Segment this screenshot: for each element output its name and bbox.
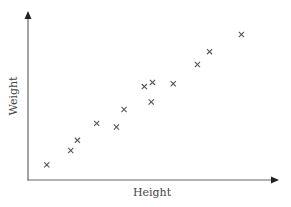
x-marker-icon	[94, 121, 99, 126]
x-marker-icon	[207, 49, 212, 54]
x-axis	[28, 177, 280, 184]
x-axis-arrow-icon	[271, 177, 279, 184]
scatter-chart: Height Weight	[0, 0, 291, 207]
x-marker-icon	[68, 148, 73, 153]
x-marker-icon	[121, 107, 126, 112]
x-marker-icon	[171, 81, 176, 86]
x-marker-icon	[239, 32, 244, 37]
y-axis-label: Weight	[7, 76, 20, 116]
x-axis-label: Height	[133, 186, 172, 199]
x-marker-icon	[149, 99, 154, 104]
x-marker-icon	[142, 84, 147, 89]
x-marker-icon	[114, 124, 119, 129]
x-marker-icon	[75, 138, 80, 143]
y-axis	[25, 11, 32, 181]
y-axis-arrow-icon	[25, 11, 32, 19]
data-points	[44, 32, 244, 168]
x-marker-icon	[195, 62, 200, 67]
x-marker-icon	[150, 80, 155, 85]
x-marker-icon	[44, 162, 49, 167]
